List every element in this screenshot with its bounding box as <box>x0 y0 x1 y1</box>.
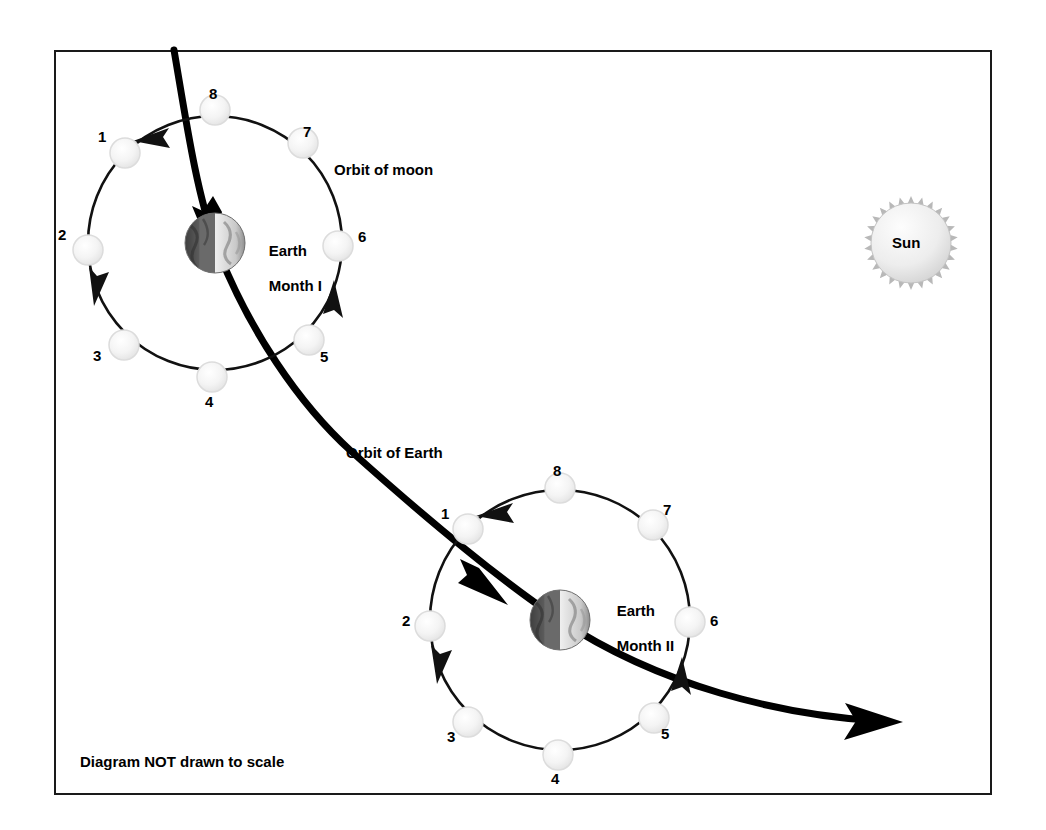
moon-number-label: 6 <box>710 612 718 629</box>
earth-sphere-month-2 <box>530 590 590 650</box>
moon-number-label: 6 <box>358 228 366 245</box>
sun-label: Sun <box>892 234 920 251</box>
earth-month-2-line2: Month II <box>617 637 674 654</box>
moon-number-label: 4 <box>551 770 559 787</box>
moon-number-label: 3 <box>447 728 455 745</box>
moon-number-label: 5 <box>320 348 328 365</box>
moon-number-label: 3 <box>93 347 101 364</box>
moon-number-label: 1 <box>441 505 449 522</box>
earth-month-2-line1: Earth <box>617 602 655 619</box>
moon-number-label: 4 <box>205 393 213 410</box>
earth-month-2-label: Earth Month II <box>600 585 674 671</box>
moon-number-label: 8 <box>553 462 561 479</box>
moon-number-label: 5 <box>661 725 669 742</box>
moon-number-label: 2 <box>58 226 66 243</box>
earth-month-1-line2: Month I <box>269 277 322 294</box>
earth-sphere-month-1 <box>185 213 245 273</box>
earth-month-1-line1: Earth <box>269 242 307 259</box>
moon-number-label: 7 <box>663 501 671 518</box>
diagram-artwork <box>0 0 1046 830</box>
footnote: Diagram NOT drawn to scale <box>80 753 284 770</box>
moon-number-label: 7 <box>303 123 311 140</box>
moon-number-label: 8 <box>209 85 217 102</box>
orbit-of-earth-label: Orbit of Earth <box>346 444 443 461</box>
diagram-canvas: Orbit of moon Orbit of Earth Sun Earth M… <box>0 0 1046 830</box>
orbit-of-moon-label: Orbit of moon <box>334 161 433 178</box>
moon-number-label: 2 <box>402 612 410 629</box>
moon-number-label: 1 <box>98 128 106 145</box>
earth-month-1-label: Earth Month I <box>252 225 322 311</box>
